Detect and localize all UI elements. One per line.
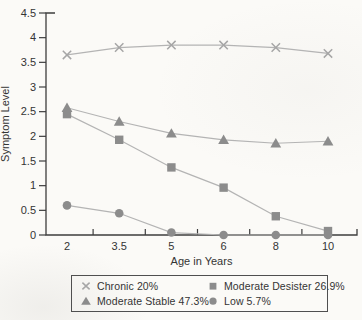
legend-label-chronic: Chronic 20% <box>97 280 158 292</box>
square-marker <box>115 136 123 144</box>
y-tick-label: 1 <box>30 179 36 191</box>
cross-marker-glyph <box>82 283 89 290</box>
y-tick-label: 3.5 <box>21 56 36 68</box>
square-marker <box>167 163 175 171</box>
circle-marker-icon <box>207 295 219 307</box>
circle-marker <box>272 231 281 240</box>
legend-item-chronic: Chronic 20% <box>80 279 207 294</box>
cross-marker-icon <box>80 280 92 292</box>
y-tick-label: 1.5 <box>21 155 36 167</box>
x-tick-label: 5 <box>168 240 174 252</box>
circle-marker <box>63 201 72 210</box>
legend-item-low: Low 5.7% <box>207 294 345 309</box>
series-line-triangle <box>67 108 328 144</box>
symptom-trajectory-chart: 4.543.532.521.510.5023.556810Age in Year… <box>0 0 362 270</box>
y-tick-label: 0.5 <box>21 204 36 216</box>
legend-label-moderate-stable: Moderate Stable 47.3% <box>97 295 209 307</box>
y-tick-label: 3 <box>30 81 36 93</box>
square-marker <box>219 183 227 191</box>
x-tick-label: 8 <box>273 240 279 252</box>
triangle-marker <box>62 103 73 112</box>
chart-legend: Chronic 20% Moderate Desister 26.9% Mode… <box>71 275 328 312</box>
square-marker-glyph <box>210 283 217 290</box>
circle-marker <box>324 231 333 240</box>
square-marker-icon <box>207 280 219 292</box>
y-tick-label: 4.5 <box>21 7 36 19</box>
triangle-marker <box>323 136 334 145</box>
legend-label-moderate-desister: Moderate Desister 26.9% <box>224 280 345 292</box>
circle-marker <box>219 231 228 240</box>
y-tick-label: 2 <box>30 130 36 142</box>
square-marker <box>272 212 280 220</box>
triangle-marker-glyph <box>81 297 91 305</box>
circle-marker <box>115 209 124 218</box>
legend-item-moderate-desister: Moderate Desister 26.9% <box>207 279 345 294</box>
series-line-square <box>67 114 328 231</box>
x-tick-label: 6 <box>221 240 227 252</box>
axis-frame <box>46 13 357 235</box>
series-line-cross <box>67 45 328 55</box>
x-tick-label: 3.5 <box>112 240 127 252</box>
legend-item-moderate-stable: Moderate Stable 47.3% <box>80 294 207 309</box>
y-axis-title: Symptom Level <box>0 86 11 162</box>
y-tick-label: 4 <box>30 31 36 43</box>
y-tick-label: 0 <box>30 229 36 241</box>
circle-marker <box>167 228 176 237</box>
y-tick-label: 2.5 <box>21 105 36 117</box>
x-tick-label: 10 <box>322 240 334 252</box>
x-tick-label: 2 <box>64 240 70 252</box>
figure-symptom-trajectories: 4.543.532.521.510.5023.556810Age in Year… <box>0 0 362 320</box>
legend-label-low: Low 5.7% <box>224 295 271 307</box>
triangle-marker-icon <box>80 295 92 307</box>
circle-marker-glyph <box>209 298 216 305</box>
x-axis-title: Age in Years <box>171 255 233 267</box>
